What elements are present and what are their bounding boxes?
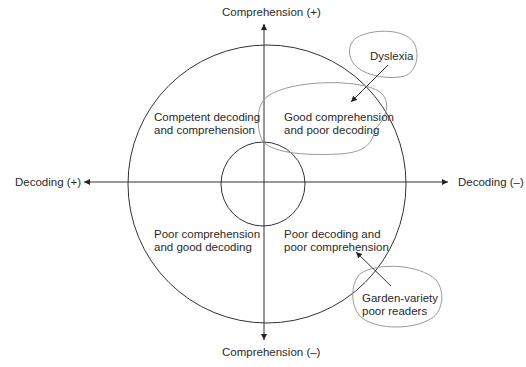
inner-circle bbox=[221, 142, 305, 226]
callout-label-garden-variety: Garden-variety poor readers bbox=[362, 292, 438, 318]
quadrant-label-top-right: Good comprehension and poor decoding bbox=[284, 111, 394, 137]
outer-circle bbox=[128, 45, 406, 323]
quadrant-label-bottom-right: Poor decoding and poor comprehension bbox=[284, 228, 389, 254]
dyslexia-arrow bbox=[351, 65, 388, 102]
quadrant-label-bottom-left: Poor comprehension and good decoding bbox=[154, 228, 260, 254]
axis-label-decoding-plus: Decoding (+) bbox=[15, 176, 81, 189]
axis-label-decoding-minus: Decoding (–) bbox=[458, 176, 524, 189]
callout-label-dyslexia: Dyslexia bbox=[370, 50, 413, 63]
axis-label-comprehension-plus: Comprehension (+) bbox=[222, 6, 321, 19]
quadrant-label-top-left: Competent decoding and comprehension bbox=[154, 111, 260, 137]
axis-label-comprehension-minus: Comprehension (–) bbox=[222, 346, 320, 359]
